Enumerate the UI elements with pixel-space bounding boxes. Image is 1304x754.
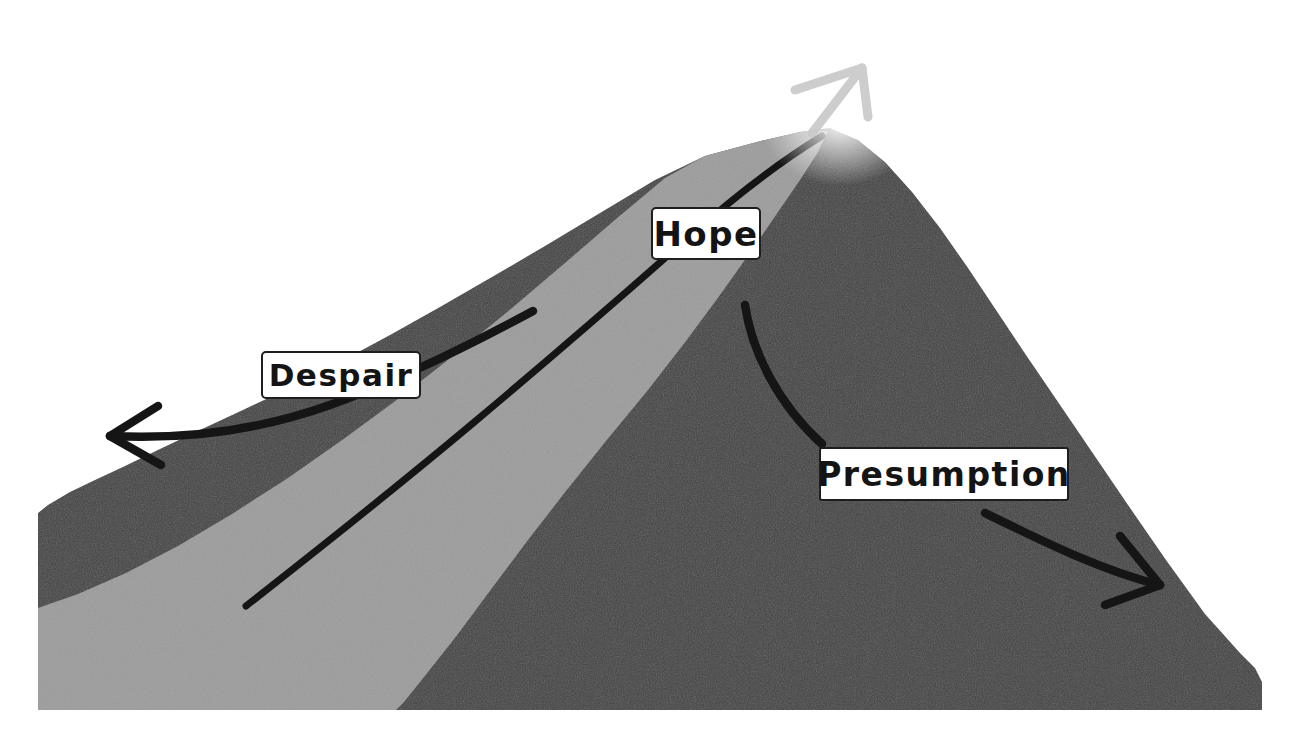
- label-despair-text: Despair: [269, 357, 414, 393]
- diagram-canvas: Hope Despair Presumption: [0, 0, 1304, 754]
- label-presumption-text: Presumption: [817, 455, 1071, 494]
- label-hope[interactable]: Hope: [651, 207, 761, 260]
- label-despair[interactable]: Despair: [261, 351, 421, 399]
- summit-glow: [762, 62, 918, 186]
- label-hope-text: Hope: [653, 214, 758, 254]
- summit-arrow-head-right: [862, 68, 868, 117]
- mountain-illustration: [0, 0, 1304, 754]
- despair-arrow-head-upper: [110, 406, 158, 436]
- label-presumption[interactable]: Presumption: [819, 447, 1069, 501]
